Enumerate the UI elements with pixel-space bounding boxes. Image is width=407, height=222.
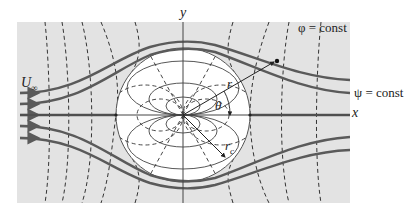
freestream-subscript: ∞: [31, 83, 37, 93]
cylinder-radius-subscript: c: [230, 146, 234, 156]
psi-label: ψ = const: [354, 86, 403, 99]
field-point: [275, 59, 279, 63]
y-axis-label: y: [180, 6, 186, 20]
stagnation-point-left: [114, 113, 117, 116]
phi-label: φ = const: [298, 21, 347, 34]
cylinder-radius-label: rc: [225, 139, 234, 156]
freestream-label: U∞: [21, 76, 38, 93]
theta-label: θ: [215, 99, 221, 112]
x-axis-label: x: [352, 106, 358, 120]
freestream-symbol: U: [21, 75, 31, 90]
radius-label: r: [227, 77, 232, 90]
stagnation-point-right: [248, 113, 251, 116]
